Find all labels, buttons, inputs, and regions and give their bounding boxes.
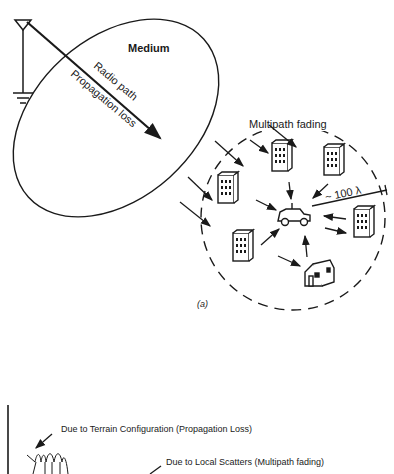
propagation-diagram: Medium Radio path Propagation loss Multi…: [0, 0, 394, 474]
distance-label: ~ 100 λ: [324, 184, 363, 203]
building-icon: [233, 230, 253, 261]
terrain-arrow: [36, 434, 52, 448]
house-icon: [305, 260, 334, 286]
building-icon: [324, 144, 344, 175]
multipath-label: Multipath fading: [249, 118, 327, 130]
signal-trace: [27, 454, 68, 474]
scatter-label: Due to Local Scatters (Multipath fading): [166, 457, 324, 467]
radio-path-arrow: [27, 22, 160, 138]
figure-caption: (a): [197, 299, 208, 309]
antenna-icon: [13, 20, 33, 103]
car-icon: [278, 203, 310, 226]
building-icon: [218, 172, 238, 203]
medium-ellipse: [0, 0, 257, 256]
terrain-label: Due to Terrain Configuration (Propagatio…: [61, 424, 252, 434]
medium-label: Medium: [128, 42, 170, 54]
building-icon: [354, 206, 374, 237]
building-icon: [272, 140, 292, 171]
scatter-arrow: [150, 466, 161, 474]
